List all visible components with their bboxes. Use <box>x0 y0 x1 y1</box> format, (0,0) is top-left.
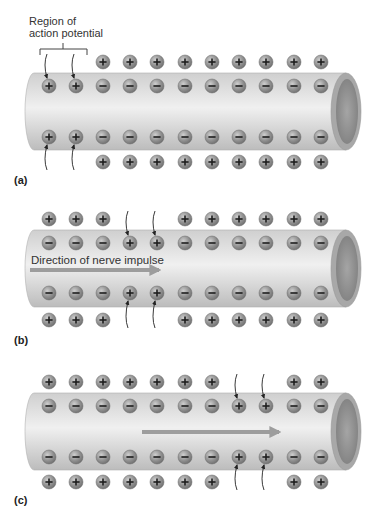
negative-ion-icon <box>232 130 246 144</box>
panel-b <box>25 211 361 328</box>
positive-ion-icon <box>42 375 56 389</box>
negative-ion-icon <box>314 450 328 464</box>
region-label-line1: Region of <box>29 15 103 27</box>
positive-ion-icon <box>123 286 137 300</box>
negative-ion-icon <box>42 450 56 464</box>
negative-ion-icon <box>96 450 110 464</box>
region-bracket <box>40 43 87 55</box>
positive-ion-icon <box>69 212 83 226</box>
positive-ion-icon <box>69 130 83 144</box>
positive-ion-icon <box>232 399 246 413</box>
panel-label-b: (b) <box>14 334 28 346</box>
positive-ion-icon <box>69 375 83 389</box>
positive-ion-icon <box>123 375 137 389</box>
positive-ion-icon <box>232 313 246 327</box>
negative-ion-icon <box>96 236 110 250</box>
negative-ion-icon <box>232 79 246 93</box>
positive-ion-icon <box>232 450 246 464</box>
positive-ion-icon <box>96 313 110 327</box>
negative-ion-icon <box>96 130 110 144</box>
negative-ion-icon <box>205 79 219 93</box>
negative-ion-icon <box>314 79 328 93</box>
positive-ion-icon <box>96 212 110 226</box>
negative-ion-icon <box>287 399 301 413</box>
positive-ion-icon <box>259 155 273 169</box>
positive-ion-icon <box>314 475 328 489</box>
positive-ion-icon <box>42 475 56 489</box>
negative-ion-icon <box>150 450 164 464</box>
positive-ion-icon <box>259 399 273 413</box>
direction-label: Direction of nerve impulse <box>31 254 164 266</box>
negative-ion-icon <box>205 450 219 464</box>
positive-ion-icon <box>69 475 83 489</box>
negative-ion-icon <box>69 450 83 464</box>
positive-ion-icon <box>205 155 219 169</box>
positive-ion-icon <box>42 130 56 144</box>
positive-ion-icon <box>287 375 301 389</box>
positive-ion-icon <box>178 155 192 169</box>
positive-ion-icon <box>314 212 328 226</box>
negative-ion-icon <box>69 236 83 250</box>
positive-ion-icon <box>150 155 164 169</box>
negative-ion-icon <box>259 286 273 300</box>
negative-ion-icon <box>123 130 137 144</box>
negative-ion-icon <box>178 286 192 300</box>
positive-ion-icon <box>259 313 273 327</box>
positive-ion-icon <box>150 475 164 489</box>
negative-ion-icon <box>96 399 110 413</box>
negative-ion-icon <box>287 286 301 300</box>
panel-label-a: (a) <box>14 174 27 186</box>
negative-ion-icon <box>178 79 192 93</box>
negative-ion-icon <box>287 236 301 250</box>
negative-ion-icon <box>178 450 192 464</box>
positive-ion-icon <box>205 375 219 389</box>
negative-ion-icon <box>42 399 56 413</box>
positive-ion-icon <box>150 236 164 250</box>
negative-ion-icon <box>42 286 56 300</box>
negative-ion-icon <box>96 79 110 93</box>
negative-ion-icon <box>205 399 219 413</box>
panel-label-c: (c) <box>14 494 27 506</box>
negative-ion-icon <box>259 130 273 144</box>
positive-ion-icon <box>42 212 56 226</box>
negative-ion-icon <box>232 286 246 300</box>
negative-ion-icon <box>314 130 328 144</box>
negative-ion-icon <box>259 236 273 250</box>
positive-ion-icon <box>150 55 164 69</box>
negative-ion-icon <box>205 286 219 300</box>
positive-ion-icon <box>232 55 246 69</box>
negative-ion-icon <box>314 236 328 250</box>
negative-ion-icon <box>96 286 110 300</box>
positive-ion-icon <box>314 155 328 169</box>
positive-ion-icon <box>287 313 301 327</box>
negative-ion-icon <box>178 130 192 144</box>
negative-ion-icon <box>232 236 246 250</box>
panel-a <box>25 54 361 170</box>
positive-ion-icon <box>69 313 83 327</box>
positive-ion-icon <box>96 155 110 169</box>
positive-ion-icon <box>150 286 164 300</box>
positive-ion-icon <box>178 375 192 389</box>
negative-ion-icon <box>42 236 56 250</box>
positive-ion-icon <box>123 475 137 489</box>
positive-ion-icon <box>259 55 273 69</box>
positive-ion-icon <box>178 313 192 327</box>
negative-ion-icon <box>259 79 273 93</box>
negative-ion-icon <box>150 399 164 413</box>
positive-ion-icon <box>314 375 328 389</box>
positive-ion-icon <box>314 313 328 327</box>
positive-ion-icon <box>150 375 164 389</box>
positive-ion-icon <box>123 236 137 250</box>
positive-ion-icon <box>178 212 192 226</box>
positive-ion-icon <box>123 155 137 169</box>
negative-ion-icon <box>69 286 83 300</box>
negative-ion-icon <box>123 399 137 413</box>
negative-ion-icon <box>314 286 328 300</box>
positive-ion-icon <box>123 55 137 69</box>
positive-ion-icon <box>96 475 110 489</box>
negative-ion-icon <box>123 79 137 93</box>
negative-ion-icon <box>205 236 219 250</box>
positive-ion-icon <box>259 212 273 226</box>
negative-ion-icon <box>287 450 301 464</box>
panel-c <box>25 374 361 490</box>
